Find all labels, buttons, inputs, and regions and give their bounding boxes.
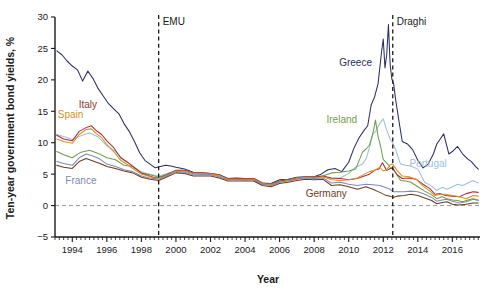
series-label-portugal: Portugal — [410, 158, 447, 169]
x-tick-label: 1996 — [96, 244, 117, 255]
series-label-france: France — [65, 175, 97, 186]
series-label-italy: Italy — [79, 99, 97, 110]
bond-yields-chart: −505101520253019941996199820002002200420… — [0, 0, 486, 290]
x-tick-label: 2004 — [234, 244, 255, 255]
axes-group — [51, 17, 480, 242]
event-labels-group: EMUDraghi — [163, 16, 427, 27]
y-tick-label: −5 — [37, 231, 48, 242]
x-tick-label: 2016 — [442, 244, 463, 255]
y-tick-label: 0 — [43, 200, 48, 211]
series-label-spain: Spain — [58, 109, 84, 120]
x-tick-label: 1998 — [131, 244, 152, 255]
series-label-ireland: Ireland — [326, 114, 357, 125]
series-traces-group — [57, 25, 479, 205]
event-lines-group — [159, 15, 393, 237]
chart-svg: −505101520253019941996199820002002200420… — [0, 0, 486, 290]
y-tick-label: 25 — [37, 43, 48, 54]
x-tick-label: 2000 — [165, 244, 186, 255]
event-label-emu: EMU — [163, 16, 185, 27]
x-tick-label: 2012 — [373, 244, 394, 255]
y-tick-label: 30 — [37, 11, 48, 22]
x-tick-label: 2002 — [200, 244, 221, 255]
x-tick-label: 2010 — [338, 244, 359, 255]
series-labels-group: GreeceIrelandPortugalItalySpainFranceGer… — [58, 57, 447, 199]
y-axis-title: Ten-year government bond yields, % — [4, 36, 16, 219]
x-tick-label: 1994 — [62, 244, 83, 255]
y-tick-label: 20 — [37, 74, 48, 85]
x-axis-title: Year — [257, 273, 279, 285]
y-tick-label: 5 — [43, 169, 48, 180]
series-label-germany: Germany — [306, 188, 347, 199]
tick-labels-group: −505101520253019941996199820002002200420… — [37, 11, 463, 255]
y-tick-label: 15 — [37, 106, 48, 117]
x-tick-label: 2008 — [304, 244, 325, 255]
event-label-draghi: Draghi — [397, 16, 426, 27]
x-tick-label: 2006 — [269, 244, 290, 255]
x-tick-label: 2014 — [407, 244, 428, 255]
series-label-greece: Greece — [339, 57, 372, 68]
y-tick-label: 10 — [37, 137, 48, 148]
